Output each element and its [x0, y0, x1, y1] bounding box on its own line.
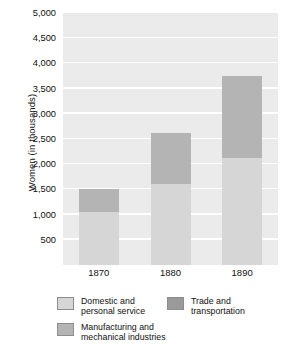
legend-item-manufacturing-and-mechanical-industries: Manufacturing and mechanical industries	[57, 322, 166, 342]
x-tick-label: 1880	[160, 267, 181, 278]
legend-swatch-icon-trade	[167, 297, 184, 310]
bar-segment	[79, 212, 119, 265]
chart-legend: Domestic and personal service Trade and …	[57, 296, 285, 348]
y-tick-label: 4,000	[33, 58, 56, 68]
bar-segment	[151, 184, 191, 265]
legend-label-domestic: Domestic and personal service	[81, 296, 145, 316]
y-tick-label: 500	[40, 235, 56, 245]
plot-area	[63, 13, 278, 265]
bar-1880	[151, 133, 191, 265]
y-tick-label: 3,500	[33, 84, 56, 94]
y-tick-label: 2,500	[33, 134, 56, 144]
legend-label-trade: Trade and transportation	[191, 296, 245, 316]
y-axis-tick-labels: 5001,0001,5002,0002,5003,0003,5004,0004,…	[0, 0, 60, 352]
legend-item-trade-and-transportation: Trade and transportation	[167, 296, 245, 316]
y-tick-label: 4,500	[33, 33, 56, 43]
legend-swatch-icon-domestic	[57, 297, 74, 310]
y-tick-label: 1,500	[33, 184, 56, 194]
bar-segment	[151, 133, 191, 184]
bars-layer	[63, 13, 278, 265]
bar-1890	[222, 76, 262, 265]
y-tick-label: 2,000	[33, 159, 56, 169]
legend-label-manufacturing: Manufacturing and mechanical industries	[81, 322, 166, 342]
y-tick-label: 3,000	[33, 109, 56, 119]
legend-swatch-icon-manufacturing	[57, 323, 74, 336]
bar-segment	[79, 189, 119, 212]
y-tick-label: 1,000	[33, 210, 56, 220]
bar-segment	[222, 158, 262, 265]
x-tick-label: 1890	[232, 267, 253, 278]
bar-1870	[79, 189, 119, 265]
stacked-bar-chart: Women (in thousands) 5001,0001,5002,0002…	[0, 0, 287, 352]
x-axis-tick-labels: 187018801890	[63, 267, 278, 283]
bar-segment	[222, 76, 262, 158]
legend-item-domestic-and-personal-service: Domestic and personal service	[57, 296, 145, 316]
y-tick-label: 5,000	[33, 8, 56, 18]
x-tick-label: 1870	[88, 267, 109, 278]
